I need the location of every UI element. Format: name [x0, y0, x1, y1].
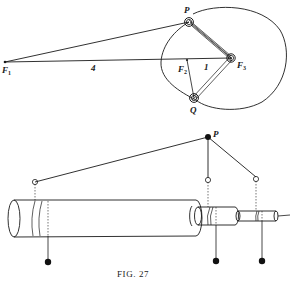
label-f2: F2 [177, 64, 187, 75]
weight-left [45, 259, 51, 265]
distance-label-4: 4 [90, 63, 96, 73]
medium-cylinder [190, 206, 239, 226]
line-f2-q [187, 60, 194, 98]
point-p-dot [205, 134, 211, 140]
pin-f3 [227, 54, 235, 62]
figure-caption: FIG. 27 [117, 269, 149, 279]
pulley-ring-middle [205, 177, 210, 182]
focus-f1-dot [4, 61, 7, 64]
large-cylinder [8, 200, 202, 237]
three-focus-oval-diagram: F1 F2 F3 P Q 4 1 [1, 5, 286, 115]
string-wrap-large [32, 184, 48, 262]
label-p-bottom: P [213, 129, 219, 139]
pulley-ring-right [253, 176, 258, 181]
weight-middle [213, 258, 219, 264]
distance-label-1: 1 [204, 62, 209, 72]
string-p-right [208, 137, 256, 177]
label-q: Q [190, 105, 197, 115]
focus-f2-dot [186, 59, 188, 61]
string-q-f3 [193, 58, 232, 99]
figure-27: F1 F2 F3 P Q 4 1 P [0, 0, 294, 283]
label-f1: F1 [1, 65, 11, 76]
label-f3: F3 [236, 60, 246, 71]
spool-cylinder-diagram: P [8, 129, 290, 265]
small-cylinder [236, 211, 290, 221]
string-p-f3 [189, 20, 232, 61]
string-wrap-medium [207, 182, 216, 261]
string-p-left [35, 137, 208, 182]
axis-f1-f3 [5, 58, 231, 62]
weight-right [259, 258, 265, 264]
label-p-top: P [184, 5, 190, 15]
